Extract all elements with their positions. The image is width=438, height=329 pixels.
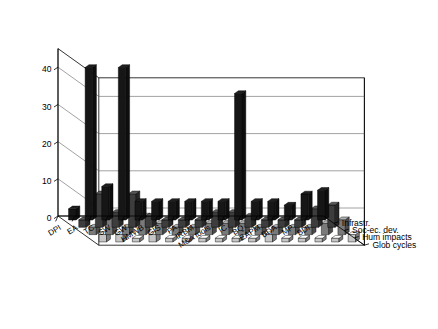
y-axis-tick-label: 10 (42, 176, 52, 186)
bar-3d (235, 91, 246, 220)
bar-3d (328, 202, 339, 227)
y-axis-tick-label: 40 (42, 64, 52, 74)
x-axis-tick-label: DPI (47, 223, 63, 238)
bar-3d (318, 187, 329, 220)
y-axis: 010203040 (42, 49, 58, 224)
y-axis-tick-label: 30 (42, 102, 52, 112)
bar-3d (102, 184, 113, 220)
legend-label: Infrastr. (342, 218, 370, 228)
bar-3d (118, 65, 129, 220)
bars-group (69, 65, 360, 242)
bar-3d (85, 65, 96, 220)
y-axis-tick-label: 20 (42, 139, 52, 149)
y-axis-tick-label: 0 (47, 213, 52, 223)
chart-container: 010203040DPIEATCSWGWHMWBGISPAIRBMM&A too… (0, 0, 438, 329)
bar-chart-3d: 010203040DPIEATCSWGWHMWBGISPAIRBMM&A too… (0, 0, 438, 329)
